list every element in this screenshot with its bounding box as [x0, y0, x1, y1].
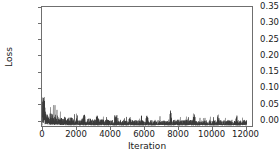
loss-series-canvas	[42, 7, 252, 126]
loss-curve-figure: Loss 0.35 0.30 0.25 0.20 0.15 0.10 0.05 …	[0, 0, 279, 159]
plot-area	[41, 6, 253, 127]
y-axis-label: Loss	[4, 39, 14, 75]
x-axis-label: Iteration	[41, 141, 253, 151]
x-tick-label: 12000	[226, 130, 266, 139]
